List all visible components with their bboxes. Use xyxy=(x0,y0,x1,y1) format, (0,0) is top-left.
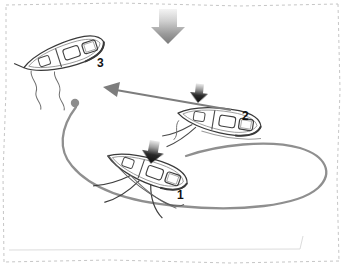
boat-position-2 xyxy=(161,99,265,161)
mooring-buoy xyxy=(71,99,79,107)
boat-label-1: 1 xyxy=(177,189,184,201)
final-approach-arrow xyxy=(103,82,231,110)
boat-label-2: 2 xyxy=(242,110,249,122)
boom-arrow-boat-2 xyxy=(189,83,209,104)
diagram-frame xyxy=(3,3,340,263)
wind-direction-arrow xyxy=(151,9,185,44)
boat-position-3 xyxy=(13,30,121,120)
boat-position-1 xyxy=(89,143,195,227)
diagram-canvas: 3 2 1 xyxy=(0,0,344,268)
diagram-svg xyxy=(0,0,344,268)
boat-label-3: 3 xyxy=(97,57,104,69)
